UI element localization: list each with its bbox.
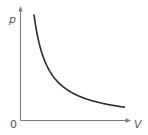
origin-label: 0 <box>10 118 17 131</box>
x-axis-arrow-icon <box>126 118 132 122</box>
y-axis-arrow-icon <box>18 6 22 12</box>
y-axis-label: p <box>8 13 16 26</box>
hyperbola-curve <box>34 15 125 108</box>
pv-diagram: p 0 V <box>0 0 148 135</box>
x-axis-label: V <box>134 118 143 131</box>
